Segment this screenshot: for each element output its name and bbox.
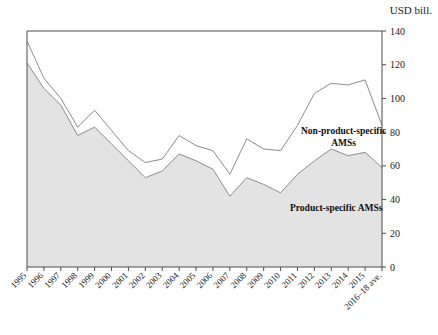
area-chart-canvas: 0204060801001201401995199619971998199920… — [0, 0, 438, 335]
y-axis-tick-label: 80 — [390, 127, 400, 138]
series-label-non-product-specific-line1: Non-product-specific — [301, 126, 386, 138]
x-axis-tick-label: 2003 — [144, 270, 164, 290]
x-axis-tick-label: 1999 — [76, 270, 96, 290]
x-axis-tick-label: 2000 — [93, 270, 113, 290]
series-label-non-product-specific-line2: AMSs — [301, 138, 386, 150]
x-axis-tick-label: 1996 — [26, 270, 46, 290]
y-axis-tick-label: 60 — [390, 160, 400, 171]
x-axis-tick-label: 2014 — [330, 270, 350, 290]
series-label-product-specific: Product-specific AMSs — [290, 203, 382, 215]
y-axis-tick-label: 120 — [390, 59, 405, 70]
x-axis-tick-label: 2006 — [195, 270, 215, 290]
x-axis-tick-label: 2010 — [262, 270, 282, 290]
x-axis-tick-label: 2012 — [296, 270, 316, 290]
chart-figure: USD bill. 020406080100120140199519961997… — [0, 0, 438, 335]
x-axis-tick-label: 2004 — [161, 270, 181, 290]
series-label-non-product-specific: Non-product-specific AMSs — [301, 126, 386, 150]
x-axis-tick-label: 2001 — [110, 270, 130, 290]
y-axis-tick-label: 0 — [390, 262, 395, 273]
x-axis-tick-label: 2013 — [313, 270, 333, 290]
x-axis-tick-label: 1998 — [59, 270, 79, 290]
y-axis-tick-label: 100 — [390, 93, 405, 104]
x-axis-tick-label: 1997 — [42, 270, 62, 290]
y-axis-tick-label: 140 — [390, 26, 405, 37]
x-axis-tick-label: 2009 — [245, 270, 265, 290]
x-axis-tick-label: 2011 — [279, 270, 299, 290]
y-axis-tick-label: 40 — [390, 194, 400, 205]
x-axis-tick-label: 1995 — [9, 270, 29, 290]
x-axis-tick-label: 2008 — [228, 270, 248, 290]
x-axis-tick-label: 2005 — [178, 270, 198, 290]
x-axis-tick-label: 2007 — [211, 270, 231, 290]
y-axis-tick-label: 20 — [390, 228, 400, 239]
series-label-product-specific-line1: Product-specific AMSs — [290, 203, 382, 215]
x-axis-tick-label: 2002 — [127, 270, 147, 290]
